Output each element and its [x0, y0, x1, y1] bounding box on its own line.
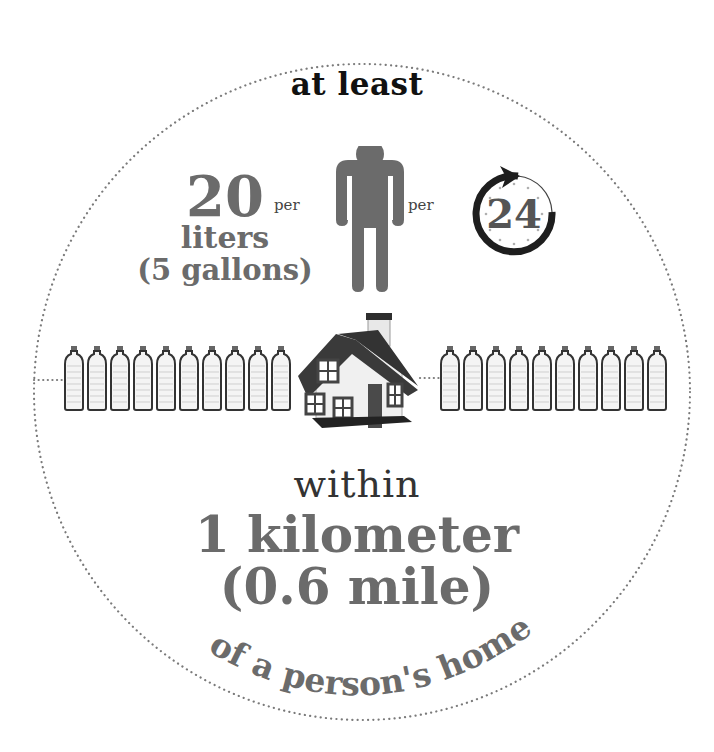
- water-bottle-icon: [134, 346, 152, 410]
- water-bottle-icon: [88, 346, 106, 410]
- bottom-arc-text: of a person's home: [203, 607, 538, 704]
- per-label-1: per: [274, 196, 300, 214]
- water-bottle-icon: [556, 346, 574, 410]
- water-bottle-icon: [510, 346, 528, 410]
- infographic: of a person's home at least 20 liters (5…: [0, 0, 714, 752]
- water-bottle-icon: [533, 346, 551, 410]
- water-bottle-icon: [65, 346, 83, 410]
- water-bottle-icon: [157, 346, 175, 410]
- water-bottle-icon: [579, 346, 597, 410]
- water-bottle-icon: [203, 346, 221, 410]
- water-bottle-icon: [602, 346, 620, 410]
- water-bottle-icon: [180, 346, 198, 410]
- clock-24h-icon: 24: [462, 160, 562, 264]
- water-bottle-icon: [648, 346, 666, 410]
- house-icon: [294, 310, 424, 430]
- distance-alt: (0.6 mile): [0, 560, 714, 614]
- within-label: within: [0, 462, 714, 506]
- water-bottle-icon: [464, 346, 482, 410]
- top-label: at least: [0, 66, 714, 102]
- water-bottle-icon: [111, 346, 129, 410]
- bottles-left: [64, 344, 294, 414]
- water-bottle-icon: [487, 346, 505, 410]
- water-bottle-icon: [249, 346, 267, 410]
- amount-unit: liters: [120, 222, 330, 254]
- per-label-2: per: [408, 196, 434, 214]
- water-bottle-icon: [226, 346, 244, 410]
- water-bottle-icon: [625, 346, 643, 410]
- amount-alt: (5 gallons): [110, 254, 340, 286]
- person-icon: [330, 146, 410, 294]
- distance-primary: 1 kilometer: [0, 508, 714, 562]
- bottles-right: [440, 344, 670, 414]
- clock-number: 24: [486, 190, 542, 237]
- water-bottle-icon: [272, 346, 290, 410]
- water-bottle-icon: [441, 346, 459, 410]
